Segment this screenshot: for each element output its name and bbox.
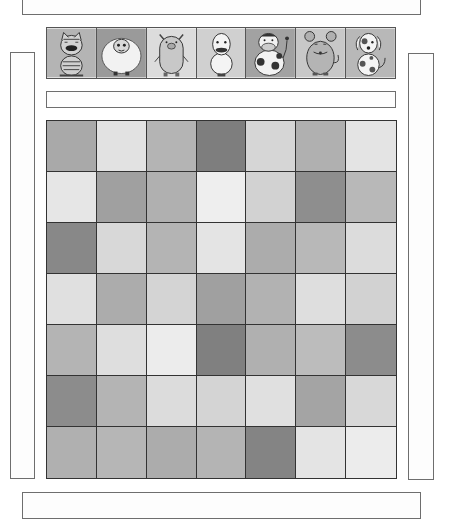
grid-cell[interactable] <box>47 427 97 478</box>
grid-cell[interactable] <box>246 121 296 172</box>
left-side-panel <box>10 52 35 479</box>
grid-cell[interactable] <box>346 376 396 427</box>
grid-cell[interactable] <box>47 121 97 172</box>
pig-icon <box>147 28 196 78</box>
grid-cell[interactable] <box>197 121 247 172</box>
grid-cell[interactable] <box>197 325 247 376</box>
message-banner <box>46 91 396 108</box>
grid-cell[interactable] <box>296 121 346 172</box>
grid-cell[interactable] <box>97 325 147 376</box>
grid-cell[interactable] <box>97 172 147 223</box>
dog-icon <box>346 28 395 78</box>
grid-cell[interactable] <box>97 427 147 478</box>
grid-cell[interactable] <box>47 172 97 223</box>
grid-cell[interactable] <box>147 223 197 274</box>
animal-tile-pig[interactable] <box>147 28 197 78</box>
grid-cell[interactable] <box>47 325 97 376</box>
mouse-icon <box>296 28 345 78</box>
game-board <box>46 120 397 479</box>
grid-cell[interactable] <box>197 274 247 325</box>
animal-tile-cow[interactable] <box>246 28 296 78</box>
duck-icon <box>197 28 246 78</box>
cat-icon <box>47 28 96 78</box>
grid-cell[interactable] <box>346 223 396 274</box>
grid-cell[interactable] <box>296 223 346 274</box>
grid-cell[interactable] <box>346 274 396 325</box>
grid-cell[interactable] <box>47 376 97 427</box>
grid-cell[interactable] <box>97 274 147 325</box>
grid-cell[interactable] <box>147 121 197 172</box>
grid-cell[interactable] <box>246 376 296 427</box>
grid-cell[interactable] <box>296 325 346 376</box>
grid-cell[interactable] <box>296 376 346 427</box>
grid-cell[interactable] <box>296 172 346 223</box>
grid-cell[interactable] <box>246 325 296 376</box>
top-panel <box>22 0 421 15</box>
grid-cell[interactable] <box>246 427 296 478</box>
grid-cell[interactable] <box>346 172 396 223</box>
animal-tile-duck[interactable] <box>197 28 247 78</box>
grid-cell[interactable] <box>47 223 97 274</box>
grid-cell[interactable] <box>346 325 396 376</box>
grid-cell[interactable] <box>147 172 197 223</box>
grid-cell[interactable] <box>147 427 197 478</box>
grid-cell[interactable] <box>197 172 247 223</box>
right-side-panel <box>408 53 434 480</box>
bottom-panel <box>22 492 421 519</box>
sheep-icon <box>97 28 146 78</box>
grid-cell[interactable] <box>147 325 197 376</box>
grid-cell[interactable] <box>296 427 346 478</box>
animal-tile-dog[interactable] <box>346 28 395 78</box>
grid-cell[interactable] <box>296 274 346 325</box>
animal-tile-mouse[interactable] <box>296 28 346 78</box>
cow-icon <box>246 28 295 78</box>
grid-cell[interactable] <box>197 427 247 478</box>
grid-cell[interactable] <box>97 121 147 172</box>
grid-cell[interactable] <box>97 223 147 274</box>
grid-cell[interactable] <box>147 274 197 325</box>
grid-cell[interactable] <box>246 274 296 325</box>
grid-cell[interactable] <box>47 274 97 325</box>
grid-cell[interactable] <box>197 223 247 274</box>
grid-cell[interactable] <box>246 223 296 274</box>
animal-tile-sheep[interactable] <box>97 28 147 78</box>
grid-cell[interactable] <box>197 376 247 427</box>
grid-cell[interactable] <box>346 121 396 172</box>
animal-tile-cat[interactable] <box>47 28 97 78</box>
grid-cell[interactable] <box>147 376 197 427</box>
grid-cell[interactable] <box>97 376 147 427</box>
grid-cell[interactable] <box>246 172 296 223</box>
animal-palette <box>46 27 396 79</box>
grid-cell[interactable] <box>346 427 396 478</box>
